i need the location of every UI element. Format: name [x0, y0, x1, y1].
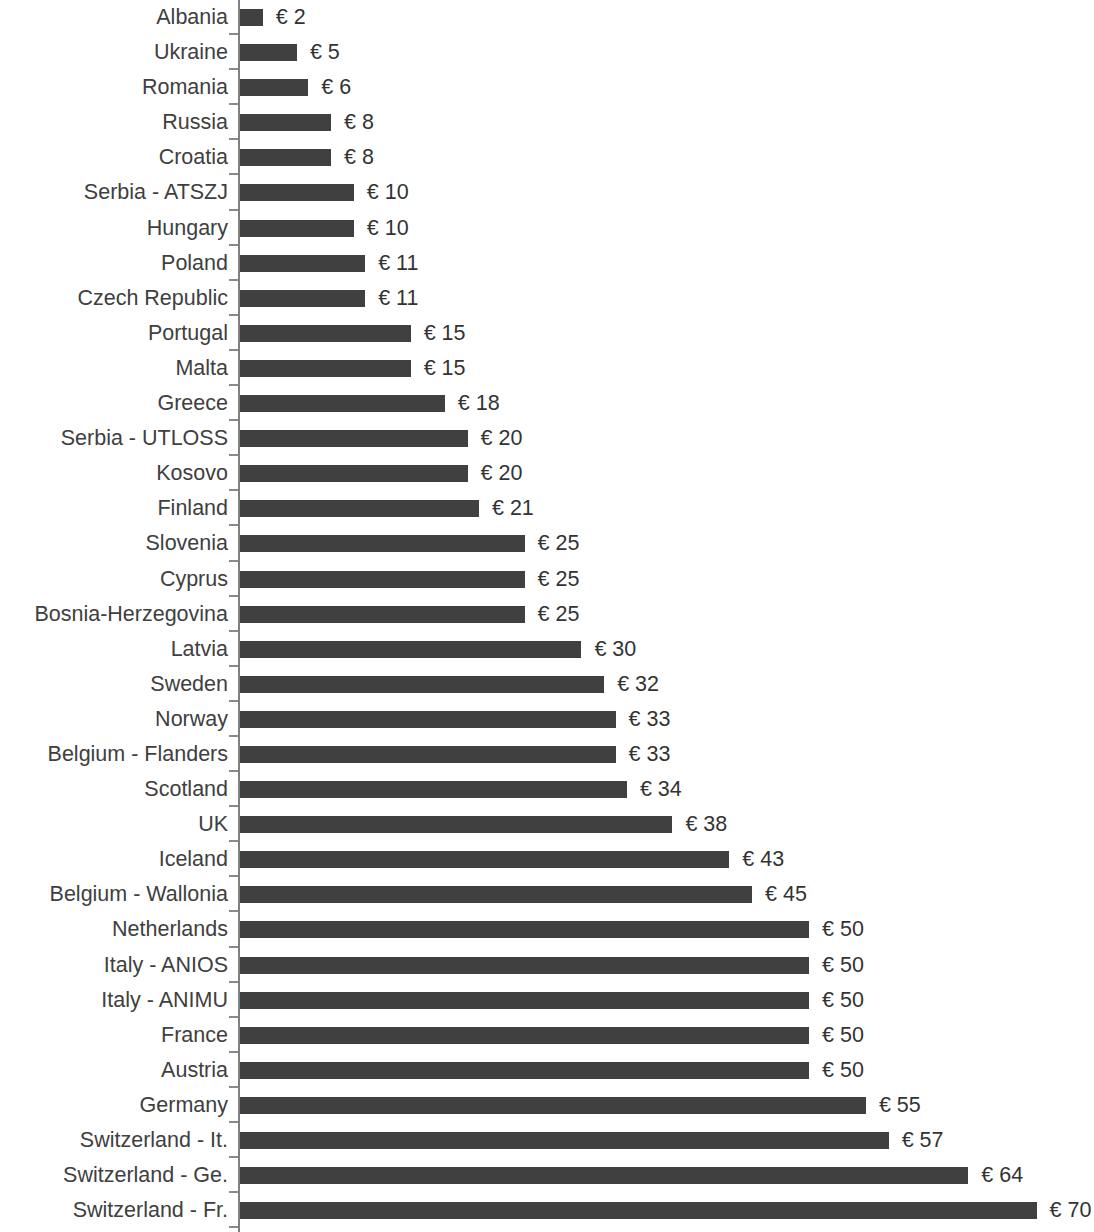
- chart-row: Finland€ 21: [0, 491, 1094, 526]
- bar-container: € 8: [240, 105, 1094, 140]
- plot-area: Albania€ 2Ukraine€ 5Romania€ 6Russia€ 8C…: [0, 0, 1094, 1232]
- chart-row: Austria€ 50: [0, 1053, 1094, 1088]
- bar-value-label: € 50: [822, 1018, 864, 1053]
- bar-value-label: € 2: [276, 0, 306, 35]
- chart-row: Switzerland - Fr.€ 70: [0, 1193, 1094, 1228]
- bar: [240, 957, 809, 974]
- bar-value-label: € 15: [424, 351, 466, 386]
- bar-container: € 50: [240, 983, 1094, 1018]
- bar: [240, 500, 479, 517]
- bar-container: € 30: [240, 632, 1094, 667]
- bar: [240, 290, 365, 307]
- axis-tick: [229, 1226, 238, 1228]
- bar: [240, 1097, 866, 1114]
- bar-value-label: € 25: [538, 526, 580, 561]
- bar-container: € 15: [240, 316, 1094, 351]
- bar: [240, 851, 729, 868]
- category-label: Scotland: [0, 772, 228, 807]
- bar-container: € 2: [240, 0, 1094, 35]
- bar-container: € 55: [240, 1088, 1094, 1123]
- bar-container: € 21: [240, 491, 1094, 526]
- bar-value-label: € 18: [458, 386, 500, 421]
- bar-container: € 64: [240, 1158, 1094, 1193]
- bar-value-label: € 30: [594, 632, 636, 667]
- chart-row: Albania€ 2: [0, 0, 1094, 35]
- bar-value-label: € 70: [1050, 1193, 1092, 1228]
- category-rows: Albania€ 2Ukraine€ 5Romania€ 6Russia€ 8C…: [0, 0, 1094, 1228]
- bar-value-label: € 25: [538, 562, 580, 597]
- bar-container: € 45: [240, 877, 1094, 912]
- bar: [240, 676, 604, 693]
- category-label: Czech Republic: [0, 281, 228, 316]
- bar-value-label: € 50: [822, 1053, 864, 1088]
- bar-container: € 20: [240, 456, 1094, 491]
- bar: [240, 465, 468, 482]
- bar: [240, 921, 809, 938]
- bar-container: € 10: [240, 211, 1094, 246]
- bar-chart: Albania€ 2Ukraine€ 5Romania€ 6Russia€ 8C…: [0, 0, 1094, 1232]
- bar-container: € 25: [240, 562, 1094, 597]
- bar: [240, 1202, 1037, 1219]
- chart-row: Netherlands€ 50: [0, 912, 1094, 947]
- bar: [240, 641, 581, 658]
- bar-container: € 50: [240, 912, 1094, 947]
- bar: [240, 746, 616, 763]
- category-label: Finland: [0, 491, 228, 526]
- chart-row: Malta€ 15: [0, 351, 1094, 386]
- chart-row: Portugal€ 15: [0, 316, 1094, 351]
- category-label: Austria: [0, 1053, 228, 1088]
- bar: [240, 606, 525, 623]
- category-label: Ukraine: [0, 35, 228, 70]
- category-label: Russia: [0, 105, 228, 140]
- bar: [240, 149, 331, 166]
- bar: [240, 571, 525, 588]
- category-label: Switzerland - Ge.: [0, 1158, 228, 1193]
- chart-row: Cyprus€ 25: [0, 562, 1094, 597]
- bar-container: € 70: [240, 1193, 1094, 1228]
- bar-value-label: € 45: [765, 877, 807, 912]
- category-label: Iceland: [0, 842, 228, 877]
- chart-row: Serbia - ATSZJ€ 10: [0, 175, 1094, 210]
- chart-row: Ukraine€ 5: [0, 35, 1094, 70]
- chart-row: Poland€ 11: [0, 246, 1094, 281]
- bar: [240, 255, 365, 272]
- bar-value-label: € 11: [378, 281, 418, 316]
- bar-container: € 5: [240, 35, 1094, 70]
- bar: [240, 430, 468, 447]
- bar-container: € 11: [240, 246, 1094, 281]
- chart-row: Romania€ 6: [0, 70, 1094, 105]
- chart-row: Switzerland - Ge.€ 64: [0, 1158, 1094, 1193]
- bar-container: € 33: [240, 737, 1094, 772]
- category-label: Serbia - ATSZJ: [0, 175, 228, 210]
- category-label: Latvia: [0, 632, 228, 667]
- chart-row: UK€ 38: [0, 807, 1094, 842]
- chart-row: Iceland€ 43: [0, 842, 1094, 877]
- bar-value-label: € 34: [640, 772, 682, 807]
- bar-value-label: € 43: [742, 842, 784, 877]
- bar: [240, 1062, 809, 1079]
- bar: [240, 1027, 809, 1044]
- category-label: Serbia - UTLOSS: [0, 421, 228, 456]
- category-label: Croatia: [0, 140, 228, 175]
- bar-value-label: € 57: [902, 1123, 944, 1158]
- chart-row: Croatia€ 8: [0, 140, 1094, 175]
- bar-value-label: € 32: [617, 667, 659, 702]
- bar: [240, 886, 752, 903]
- bar: [240, 535, 525, 552]
- bar-container: € 50: [240, 1018, 1094, 1053]
- bar: [240, 781, 627, 798]
- category-label: France: [0, 1018, 228, 1053]
- bar-value-label: € 38: [685, 807, 727, 842]
- bar-container: € 32: [240, 667, 1094, 702]
- category-label: Switzerland - Fr.: [0, 1193, 228, 1228]
- category-label: UK: [0, 807, 228, 842]
- bar-container: € 8: [240, 140, 1094, 175]
- bar: [240, 325, 411, 342]
- bar: [240, 220, 354, 237]
- bar-container: € 50: [240, 948, 1094, 983]
- category-label: Italy - ANIMU: [0, 983, 228, 1018]
- bar-container: € 33: [240, 702, 1094, 737]
- category-label: Kosovo: [0, 456, 228, 491]
- bar-container: € 34: [240, 772, 1094, 807]
- category-label: Portugal: [0, 316, 228, 351]
